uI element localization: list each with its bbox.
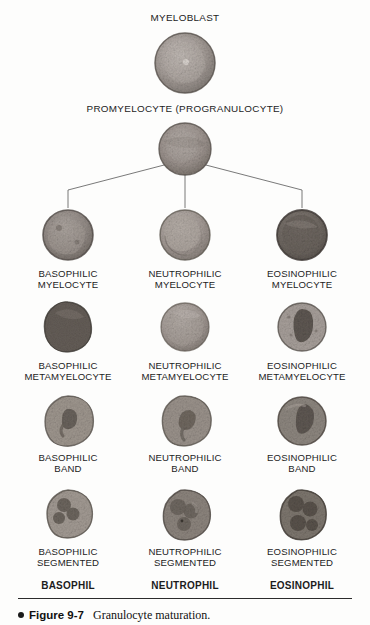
label-basophilic-metamyelocyte: BASOPHILIC METAMYELOCYTE [3, 360, 133, 383]
eosinophilic-metamyelocyte-cell [276, 301, 328, 353]
neutrophilic-myelocyte-cell [158, 208, 212, 262]
caption-divider-rule [18, 598, 352, 599]
label-basophilic-segmented: BASOPHILIC SEGMENTED [8, 546, 128, 569]
label-eosinophil: EOSINOPHIL [242, 580, 362, 591]
granulocyte-maturation-figure: MYELOBLAST PROMYELOCYTE (PROGRANULOCYTE) [0, 0, 370, 625]
label-myeloblast: MYELOBLAST [85, 12, 285, 23]
label-neutrophilic-metamyelocyte: NEUTROPHILIC METAMYELOCYTE [120, 360, 250, 383]
neutrophilic-band-cell [157, 395, 213, 447]
eosinophilic-myelocyte-cell [275, 208, 329, 262]
label-eosinophilic-segmented: EOSINOPHILIC SEGMENTED [242, 546, 362, 569]
basophilic-myelocyte-cell [41, 208, 95, 262]
myeloblast-cell [152, 30, 218, 96]
bullet-dot-icon [18, 612, 24, 618]
neutrophilic-segmented-cell [158, 489, 212, 541]
label-neutrophil: NEUTROPHIL [125, 580, 245, 591]
label-eosinophilic-metamyelocyte: EOSINOPHILIC METAMYELOCYTE [237, 360, 367, 383]
basophilic-metamyelocyte-cell [43, 301, 93, 353]
label-basophilic-myelocyte: BASOPHILIC MYELOCYTE [8, 268, 128, 291]
label-basophilic-band: BASOPHILIC BAND [8, 452, 128, 475]
basophilic-band-cell [41, 395, 95, 447]
figure-caption-text: Granulocyte maturation. [93, 608, 210, 623]
label-basophil: BASOPHIL [8, 580, 128, 591]
basophilic-segmented-cell [42, 489, 94, 539]
eosinophilic-band-cell [276, 395, 328, 447]
eosinophilic-segmented-cell [276, 489, 328, 541]
label-eosinophilic-myelocyte: EOSINOPHILIC MYELOCYTE [242, 268, 362, 291]
figure-caption: Figure 9-7 Granulocyte maturation. [18, 606, 358, 624]
label-eosinophilic-band: EOSINOPHILIC BAND [242, 452, 362, 475]
label-neutrophilic-band: NEUTROPHILIC BAND [125, 452, 245, 475]
label-promyelocyte: PROMYELOCYTE (PROGRANULOCYTE) [35, 103, 335, 114]
figure-number: Figure 9-7 [29, 609, 84, 621]
label-neutrophilic-myelocyte: NEUTROPHILIC MYELOCYTE [125, 268, 245, 291]
neutrophilic-metamyelocyte-cell [159, 301, 211, 353]
promyelocyte-cell [156, 120, 214, 178]
label-neutrophilic-segmented: NEUTROPHILIC SEGMENTED [125, 546, 245, 569]
